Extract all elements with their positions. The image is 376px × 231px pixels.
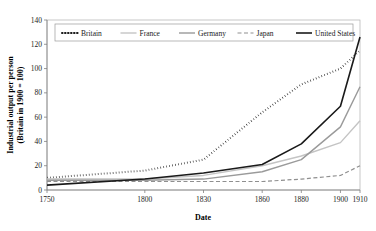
y-tick-label: 40 [35,137,43,146]
legend-label: Germany [198,29,226,38]
series-lines [47,37,360,185]
y-axis-title-line2: (Britain in 1900 = 100) [16,66,25,143]
series-line-britain [47,50,360,178]
y-tick-label: 100 [31,64,43,73]
x-tick-label: 1830 [196,195,211,204]
x-axis-title: Date [195,213,211,222]
legend-label: Britain [81,29,102,38]
y-axis-ticks: 020406080100120140 [31,16,47,195]
chart-container: 020406080100120140 175018001830186018801… [0,0,376,231]
x-tick-label: 1800 [137,195,152,204]
x-tick-label: 1910 [353,195,368,204]
legend-label: United States [315,29,355,38]
y-tick-label: 140 [31,16,43,25]
y-tick-label: 20 [35,161,43,170]
y-tick-label: 0 [38,186,42,195]
x-axis-ticks: 1750180018301860188019001910 [40,190,368,204]
plot-area [47,20,360,190]
legend-label: France [140,29,161,38]
legend-label: Japan [257,29,274,38]
x-tick-label: 1900 [333,195,348,204]
x-tick-label: 1880 [294,195,309,204]
line-chart: 020406080100120140 175018001830186018801… [0,0,376,231]
y-tick-label: 80 [35,88,43,97]
y-axis-title: Industrial output per person (Britain in… [6,56,25,154]
chart-legend: BritainFranceGermanyJapanUnited States [55,24,355,41]
x-tick-label: 1750 [40,195,55,204]
y-tick-label: 60 [35,113,43,122]
y-axis-title-line1: Industrial output per person [6,56,15,154]
x-tick-label: 1860 [255,195,270,204]
y-tick-label: 120 [31,40,43,49]
series-line-united-states [47,37,360,185]
